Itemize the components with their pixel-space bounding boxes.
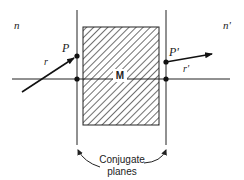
incident-ray [22, 58, 74, 92]
axis-point-left [74, 76, 79, 81]
incident-ray-label: r [44, 56, 48, 67]
system-label: M [116, 70, 124, 81]
medium-left-label: n [14, 19, 20, 31]
caption-line-2: planes [107, 166, 136, 177]
emergent-ray-label: r' [183, 63, 190, 74]
point-p-label: P [61, 41, 70, 55]
point-p-prime-label: P' [168, 45, 179, 59]
axis-point-right [163, 76, 168, 81]
optical-diagram: M n n' P P' r r' Conjugate planes [0, 0, 244, 180]
caption-line-1: Conjugate [99, 154, 145, 165]
caption-arrow-right [144, 150, 166, 163]
point-p [74, 53, 79, 58]
point-p-prime [163, 59, 168, 64]
medium-right-label: n' [223, 19, 232, 31]
caption-arrow-left [78, 150, 100, 167]
